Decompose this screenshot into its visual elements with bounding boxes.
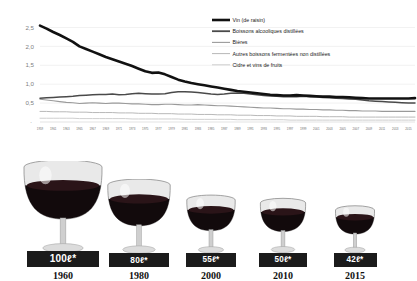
glass-foot: [345, 247, 365, 253]
glass-highlight: [343, 208, 349, 217]
wine-surface: [189, 206, 234, 214]
glass-stem: [209, 230, 213, 249]
infographic-root: 2,52,01,51,00,5· 19591961196319651967196…: [0, 0, 417, 281]
x-axis-tick-label: 2003: [326, 127, 333, 131]
glass-amount-badge: 100ℓ*: [27, 251, 99, 267]
chart-svg: 2,52,01,51,00,5· 19591961196319651967196…: [0, 0, 417, 145]
x-axis-tick-label: 1963: [63, 127, 70, 131]
glass-stem: [137, 225, 142, 249]
x-axis-tick-label: 1977: [155, 127, 162, 131]
glass-amount-badge: 42ℓ*: [334, 253, 377, 267]
x-axis-tick-label: 1985: [208, 127, 215, 131]
x-axis-tick-label: 1993: [260, 127, 267, 131]
chart-gridlines: [40, 27, 415, 122]
x-axis-tick-label: 2001: [313, 127, 320, 131]
wine-glass-series: 100ℓ*196080ℓ*198055ℓ*200050ℓ*201042ℓ*201…: [0, 145, 417, 281]
glass-highlight: [196, 198, 204, 209]
x-axis-tick-label: 1971: [116, 127, 123, 131]
series-line: [40, 26, 415, 99]
chart-series-lines: [40, 26, 415, 121]
y-axis-tick-label: ·: [30, 118, 32, 125]
x-axis-tick-label: 1967: [89, 127, 96, 131]
wine-surface: [110, 194, 168, 203]
legend-label: Boissons alcooliques distillées: [233, 28, 305, 34]
x-axis-tick-label: 1965: [76, 127, 83, 131]
chart-y-axis-labels: 2,52,01,51,00,5·: [25, 24, 34, 126]
wine-glass-graphic: [310, 204, 400, 259]
x-axis-tick-label: 1989: [234, 127, 241, 131]
series-line: [40, 99, 415, 111]
wine-surface: [262, 209, 304, 216]
chart-x-axis-labels: 1959196119631965196719691971197319751977…: [37, 127, 412, 131]
glass-year-label: 2015: [310, 270, 400, 281]
wine-glass-host: 100ℓ*196080ℓ*198055ℓ*200050ℓ*201042ℓ*201…: [0, 145, 417, 281]
legend-label: Vin (de raisin): [233, 17, 266, 23]
x-axis-tick-label: 2013: [392, 127, 399, 131]
series-line: [40, 118, 415, 120]
glass-amount-badge: 80ℓ*: [109, 253, 169, 267]
legend-label: Autres boissons fermentées non distillée…: [233, 51, 331, 57]
x-axis-tick-label: 2015: [405, 127, 412, 131]
y-axis-tick-label: 2,0: [25, 43, 34, 50]
x-axis-tick-label: 1987: [221, 127, 228, 131]
alcohol-consumption-chart: 2,52,01,51,00,5· 19591961196319651967196…: [0, 0, 417, 145]
x-axis-tick-label: 1991: [247, 127, 254, 131]
x-axis-tick-label: 1981: [182, 127, 189, 131]
glass-stem: [281, 231, 285, 249]
wine-glass-item: 42ℓ*2015: [310, 204, 400, 281]
glass-stem: [60, 218, 66, 247]
x-axis-tick-label: 1979: [168, 127, 175, 131]
x-axis-tick-label: 1961: [50, 127, 57, 131]
glass-highlight: [120, 184, 130, 198]
y-axis-tick-label: 0,5: [25, 99, 34, 106]
x-axis-tick-label: 1973: [129, 127, 136, 131]
legend-label: Bières: [233, 39, 248, 45]
x-axis-tick-label: 1983: [195, 127, 202, 131]
y-axis-tick-label: 1,5: [25, 61, 34, 68]
chart-legend: Vin (de raisin)Boissons alcooliques dist…: [212, 17, 331, 68]
wine-surface: [27, 180, 100, 191]
x-axis-tick-label: 1999: [300, 127, 307, 131]
wine-surface: [337, 214, 373, 221]
glass-highlight: [269, 201, 276, 211]
x-axis-tick-label: 1975: [142, 127, 149, 131]
x-axis-tick-label: 2007: [353, 127, 360, 131]
x-axis-tick-label: 1969: [103, 127, 110, 131]
x-axis-tick-label: 2011: [379, 127, 386, 131]
legend-label: Cidre et vins de fruits: [233, 62, 283, 68]
series-line: [40, 111, 415, 117]
x-axis-tick-label: 2009: [366, 127, 373, 131]
y-axis-tick-label: 2,5: [25, 24, 34, 31]
glass-stem: [353, 233, 356, 249]
x-axis-tick-label: 1959: [37, 127, 44, 131]
x-axis-tick-label: 2005: [339, 127, 346, 131]
glass-amount-badge: 50ℓ*: [259, 253, 307, 267]
x-axis-tick-label: 1995: [274, 127, 281, 131]
y-axis-tick-label: 1,0: [25, 80, 34, 87]
glass-amount-badge: 55ℓ*: [186, 253, 236, 267]
glass-highlight: [39, 166, 51, 184]
x-axis-tick-label: 1997: [287, 127, 294, 131]
